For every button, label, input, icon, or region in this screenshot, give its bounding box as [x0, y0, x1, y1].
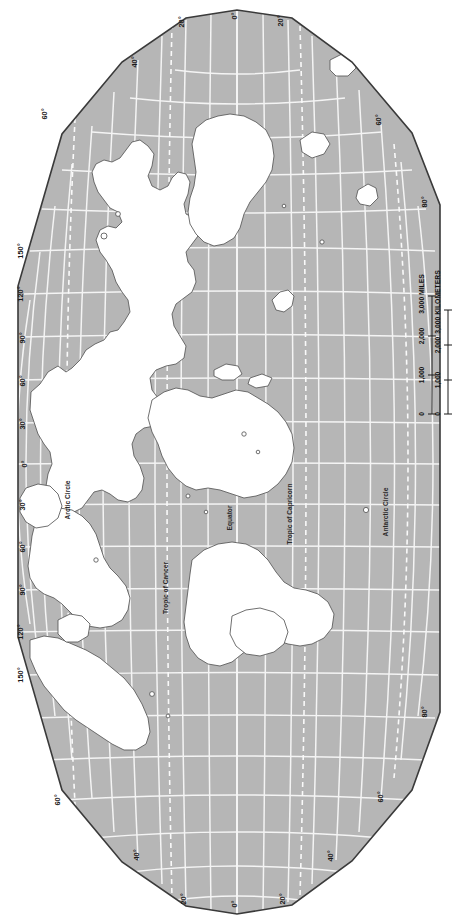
world-map-figure: Arctic Circle Tropic of Cancer Equator T…	[0, 0, 474, 923]
degree-label: 80°	[420, 196, 429, 207]
degree-label: 0°	[20, 460, 29, 467]
land-islet-2	[116, 212, 121, 217]
land-islet-7	[363, 507, 368, 512]
degree-label: 90°	[18, 584, 27, 595]
label-antarctic-circle: Antarctic Circle	[382, 487, 389, 536]
degree-label: 120°	[16, 624, 25, 639]
scale-km-tick-2000: 2,000	[434, 336, 442, 353]
land-islet-12	[282, 204, 286, 208]
scale-km-tick-0: 0	[434, 412, 441, 416]
degree-label: 20°	[177, 16, 186, 27]
degree-label: 40°	[326, 850, 335, 861]
scale-miles-unit: 3,000 MILES	[418, 274, 426, 314]
degree-label: 0°	[230, 900, 239, 907]
label-equator: Equator	[226, 505, 234, 530]
map-viewport: Arctic Circle Tropic of Cancer Equator T…	[0, 0, 474, 923]
degree-label: 150°	[16, 243, 25, 258]
degree-label: 30°	[18, 499, 27, 510]
scale-kilometers	[444, 310, 452, 414]
degree-label: 120°	[16, 286, 25, 301]
degree-label: 0°	[230, 12, 239, 19]
scale-kilometers-unit: 3,000 KILOMETERS	[434, 270, 442, 334]
degree-label: 60°	[18, 375, 27, 386]
land-islet-6	[204, 510, 208, 514]
scale-miles-tick-2000: 2,000	[418, 327, 426, 344]
land-islet-3	[242, 432, 246, 436]
scale-km-tick-1000: 1,000	[434, 371, 442, 388]
degree-label: 20°	[179, 893, 188, 904]
degree-label: 80°	[420, 706, 429, 717]
land-islet-1	[101, 233, 107, 239]
degree-label: 60°	[374, 114, 383, 125]
land-islet-9	[150, 692, 155, 697]
degree-label: 20°	[276, 15, 285, 26]
scale-miles-tick-0: 0	[418, 412, 425, 416]
land-islet-5	[186, 494, 190, 498]
degree-label: 20°	[278, 893, 287, 904]
land-islet-10	[166, 714, 170, 718]
land-islet-8	[94, 558, 98, 562]
degree-label: 60°	[18, 541, 27, 552]
label-tropic-of-cancer: Tropic of Cancer	[162, 562, 170, 614]
label-arctic-circle: Arctic Circle	[64, 480, 71, 519]
degree-label: 60°	[376, 791, 385, 802]
degree-label: 60°	[53, 794, 62, 805]
degree-label: 40°	[132, 849, 141, 860]
degree-label: 40°	[130, 56, 139, 67]
label-tropic-of-capricorn: Tropic of Capricorn	[286, 484, 294, 545]
land-islet-4	[256, 450, 260, 454]
degree-label: 90°	[18, 332, 27, 343]
scale-miles-tick-1000: 1,000	[418, 366, 426, 383]
degree-label: 60°	[40, 108, 49, 119]
degree-label: 30°	[18, 418, 27, 429]
degree-label: 150°	[16, 667, 25, 682]
land-islet-11	[320, 240, 324, 244]
